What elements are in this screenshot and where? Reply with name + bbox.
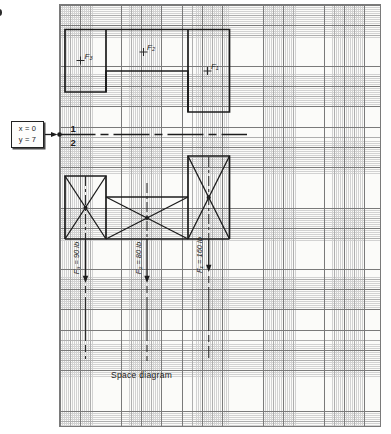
force-point-label-f2: F₂ [147, 43, 155, 52]
force-point-cross-f3 [77, 57, 85, 65]
pointer-arrowhead-icon [51, 132, 58, 137]
force-f2-vector: F₂ = 80 lb [134, 183, 150, 361]
force-f2-arrowhead-icon [144, 276, 149, 283]
force-f1-arrowhead-icon [206, 265, 211, 272]
fold-line-group: 1 2 [45, 123, 247, 148]
force-f3-arrowhead-icon [83, 276, 88, 283]
force-f2-label: F₂ = 80 lb [134, 242, 143, 274]
fold-line-label-top: 1 [71, 123, 77, 134]
diagram-overlay: F₃ F₂ F₁ 1 2 [0, 0, 391, 434]
force-point-label-f3: F₃ [85, 52, 93, 61]
space-diagram-group: F₃ = 90 lb F₂ = 80 lb F₁ = 160 lb [65, 156, 230, 361]
force-f3-label: F₃ = 90 lb [72, 242, 81, 274]
fold-line-label-bottom: 2 [71, 137, 76, 148]
force-f1-label: F₁ = 160 lb [195, 237, 204, 273]
top-view-plate: F₃ F₂ F₁ [65, 30, 230, 113]
force-point-label-f1: F₁ [211, 62, 219, 71]
figure-page: x = 0 y = 7 F₃ F₂ F₁ 1 2 [0, 0, 391, 434]
caption: Space diagram [111, 370, 172, 380]
force-f3-vector: F₃ = 90 lb [72, 176, 88, 359]
